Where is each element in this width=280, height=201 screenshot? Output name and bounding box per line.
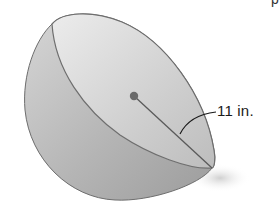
radius-label: 11 in. bbox=[217, 102, 254, 119]
center-point bbox=[130, 92, 138, 100]
hemisphere-figure bbox=[0, 0, 280, 201]
